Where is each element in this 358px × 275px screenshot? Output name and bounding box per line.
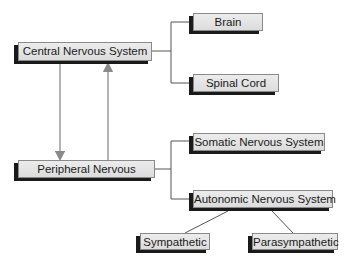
node-central-nervous-system[interactable]: Central Nervous System xyxy=(18,42,152,61)
node-parasympathetic[interactable]: Parasympathetic xyxy=(252,233,338,250)
line-autonomic-to-sympathetic xyxy=(185,211,228,233)
node-spinal-cord[interactable]: Spinal Cord xyxy=(193,74,279,92)
cns-bracket xyxy=(152,22,193,83)
nervous-system-diagram: Central Nervous System Brain Spinal Cord… xyxy=(0,0,358,275)
node-peripheral-nervous[interactable]: Peripheral Nervous xyxy=(18,160,155,178)
node-autonomic-nervous-system[interactable]: Autonomic Nervous System xyxy=(193,190,333,208)
line-autonomic-to-parasympathetic xyxy=(272,211,293,233)
node-brain[interactable]: Brain xyxy=(193,13,263,31)
pns-bracket xyxy=(155,141,193,199)
node-sympathetic[interactable]: Sympathetic xyxy=(140,233,210,250)
node-somatic-nervous-system[interactable]: Somatic Nervous System xyxy=(193,133,325,151)
